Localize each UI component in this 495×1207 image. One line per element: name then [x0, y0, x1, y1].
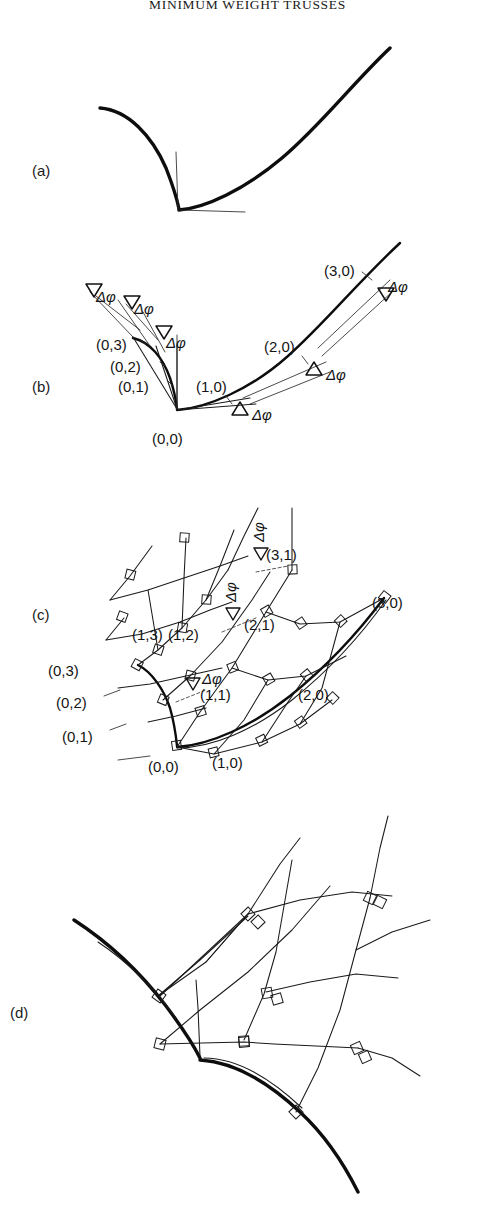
panel-d-figure	[0, 0, 495, 1207]
right-angle-marker	[251, 915, 265, 929]
right-angle-marker	[373, 895, 386, 908]
right-angle-marker	[271, 993, 283, 1005]
figure-page: MINIMUM WEIGHT TRUSSES (a) (b) (c) (d)	[0, 0, 495, 1207]
panel-d-boundary-curve	[74, 920, 358, 1192]
panel-d-mesh	[158, 816, 430, 1112]
